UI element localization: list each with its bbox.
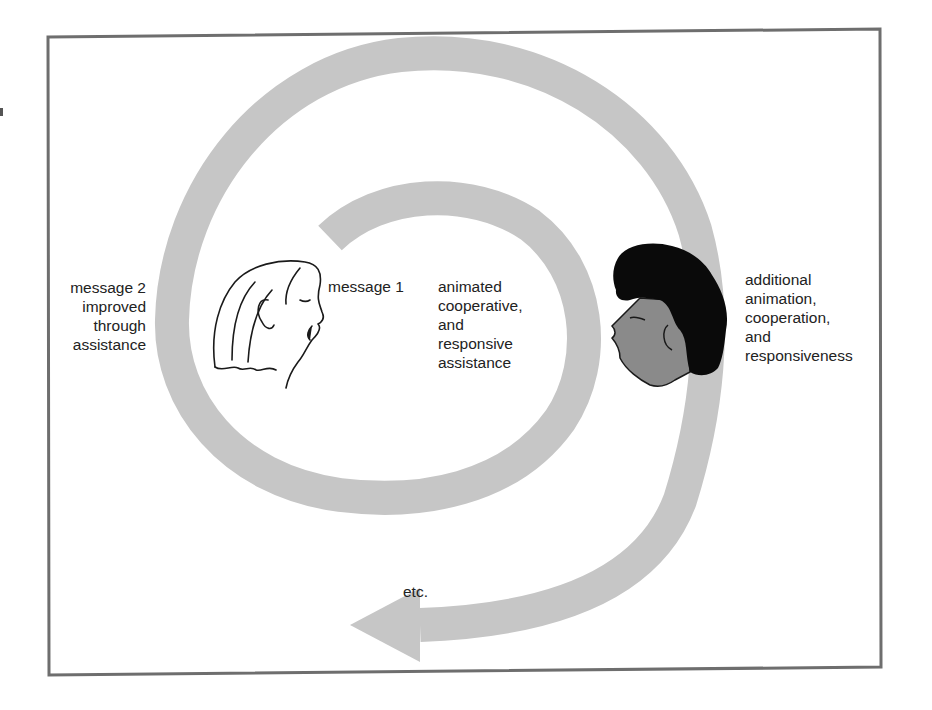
label-line: assistance <box>56 335 146 354</box>
label-line: assistance <box>438 353 522 372</box>
label-line: message 2 <box>56 278 146 297</box>
label-line: and <box>745 327 853 346</box>
label-line: responsiveness <box>745 346 853 365</box>
label-message-2: message 2 improved through assistance <box>56 278 146 354</box>
label-line: message 1 <box>328 277 404 296</box>
label-line: animated <box>438 277 522 296</box>
label-line: additional <box>745 270 853 289</box>
label-line: and <box>438 315 522 334</box>
label-line: responsive <box>438 334 522 353</box>
label-line: animation, <box>745 289 853 308</box>
label-line: etc. <box>403 582 428 601</box>
label-etc: etc. <box>403 582 428 601</box>
label-additional: additional animation, cooperation, and r… <box>745 270 853 365</box>
label-line: improved <box>56 297 146 316</box>
label-message-1: message 1 <box>328 277 404 296</box>
label-line: cooperation, <box>745 308 853 327</box>
label-line: cooperative, <box>438 296 522 315</box>
label-line: through <box>56 316 146 335</box>
speaker-woman-icon <box>214 261 324 388</box>
label-assistance: animated cooperative, and responsive ass… <box>438 277 522 372</box>
